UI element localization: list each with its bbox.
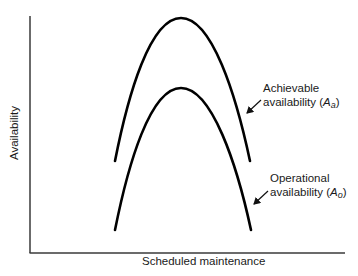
operational-label-prefix: availability ( <box>270 186 330 198</box>
achievable-availability-curve <box>115 18 250 161</box>
availability-diagram: Availability Scheduled maintenance Achie… <box>0 0 358 276</box>
operational-symbol: A <box>330 186 338 198</box>
operational-label-line2: availability (Ao) <box>270 185 347 202</box>
operational-label-suffix: ) <box>343 186 347 198</box>
achievable-label-line2: availability (Aa) <box>263 95 340 112</box>
achievable-label-prefix: availability ( <box>263 96 323 108</box>
achievable-symbol: A <box>323 96 331 108</box>
diagram-canvas <box>0 0 358 276</box>
x-axis-label: Scheduled maintenance <box>142 255 265 268</box>
achievable-label-line1: Achievable <box>263 81 340 95</box>
y-axis-label: Availability <box>8 106 21 160</box>
achievable-label-suffix: ) <box>336 96 340 108</box>
operational-availability-label: Operational availability (Ao) <box>270 171 347 202</box>
operational-label-line1: Operational <box>270 171 347 185</box>
achievable-arrow <box>247 100 261 113</box>
achievable-availability-label: Achievable availability (Aa) <box>263 81 340 112</box>
operational-availability-curve <box>115 88 251 230</box>
operational-arrow <box>254 191 268 204</box>
